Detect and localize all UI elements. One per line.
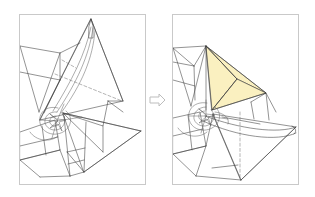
- panel-after: [173, 15, 299, 185]
- origami-diagram: [0, 0, 315, 197]
- panel-before: [20, 15, 146, 185]
- panel-before-frame: [20, 15, 146, 185]
- right-arrow-icon: [150, 94, 165, 106]
- figure-canvas: [0, 0, 315, 197]
- step-arrow: [150, 94, 165, 106]
